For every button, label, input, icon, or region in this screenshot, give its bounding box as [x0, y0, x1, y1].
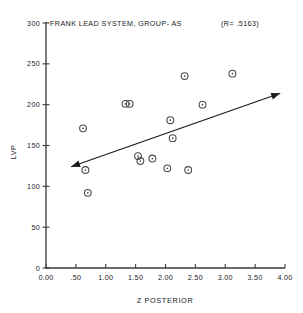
trend-line [71, 93, 280, 167]
data-point-marker [126, 100, 133, 107]
data-point-marker [149, 155, 156, 162]
data-point-marker [84, 189, 91, 196]
data-point-marker [229, 70, 236, 77]
axis-spines [46, 22, 285, 268]
data-point-marker [181, 73, 188, 80]
x-tick-label: 1.50 [128, 273, 143, 282]
data-points [80, 70, 236, 196]
correlation-annotation: (R= .5163) [221, 19, 259, 28]
data-point-marker [82, 167, 89, 174]
trend-arrow-left [71, 161, 81, 167]
data-point-marker [80, 125, 87, 132]
chart-title: FRANK LEAD SYSTEM, GROUP- AS [50, 19, 182, 28]
x-tick-label: 3.50 [248, 273, 263, 282]
y-tick-labels: 050100150200250300 [27, 19, 40, 273]
x-tick-label: 3.00 [218, 273, 233, 282]
y-tick-label: 300 [27, 19, 40, 28]
data-point-marker [199, 101, 206, 108]
axes [46, 22, 285, 268]
x-tick-labels: 0.00.501.001.502.002.503.003.504.00 [38, 273, 292, 282]
y-tick-label: 50 [31, 223, 40, 232]
y-tick-label: 250 [27, 59, 40, 68]
data-point-marker [167, 117, 174, 124]
x-tick-label: 0.00 [38, 273, 53, 282]
trend-arrow-right [271, 93, 281, 99]
data-point-marker [185, 167, 192, 174]
data-point-marker [164, 165, 171, 172]
y-tick-label: 150 [27, 141, 40, 150]
scatter-plot-figure: 0.00.501.001.502.002.503.003.504.00 0501… [0, 0, 303, 313]
x-axis-title: Z POSTERIOR [137, 296, 194, 305]
axis-ticks [43, 23, 286, 268]
y-tick-label: 0 [36, 264, 40, 273]
x-tick-label: 2.50 [188, 273, 203, 282]
x-tick-label: .50 [70, 273, 81, 282]
data-point-marker [169, 135, 176, 142]
y-axis-title: LVP [9, 145, 18, 159]
y-tick-label: 200 [27, 100, 40, 109]
x-tick-label: 2.00 [158, 273, 173, 282]
y-tick-label: 100 [27, 182, 40, 191]
plot-canvas: 0.00.501.001.502.002.503.003.504.00 0501… [0, 0, 303, 313]
regression-line [71, 93, 280, 167]
x-tick-label: 4.00 [277, 273, 292, 282]
x-tick-label: 1.00 [98, 273, 113, 282]
